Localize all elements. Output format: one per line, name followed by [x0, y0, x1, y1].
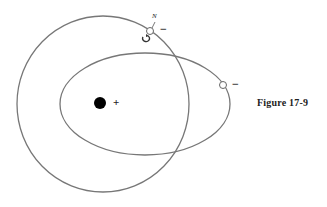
north-pole-label: N	[152, 12, 157, 20]
nucleus-charge-label: +	[113, 96, 119, 108]
electron-2-charge-label: −	[232, 77, 239, 92]
spin-axis	[152, 22, 155, 28]
electron-1-charge-label: −	[160, 22, 167, 37]
figure-caption: Figure 17-9	[257, 97, 308, 108]
elliptical-orbit	[60, 53, 230, 155]
nucleus	[94, 97, 106, 109]
electron-1	[147, 28, 154, 35]
electron-2	[220, 82, 227, 89]
